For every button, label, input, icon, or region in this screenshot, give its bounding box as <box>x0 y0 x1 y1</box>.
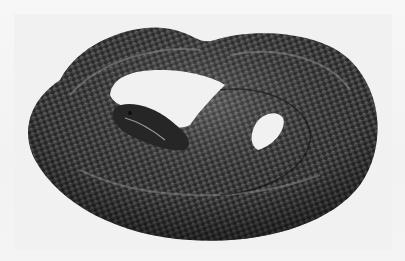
snake-photo <box>0 0 405 261</box>
snake-eye <box>128 111 132 115</box>
coiled-snake-illustration <box>0 0 405 261</box>
